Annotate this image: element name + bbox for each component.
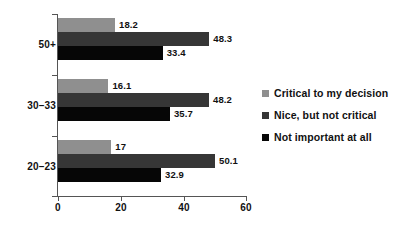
x-axis-tick [58, 197, 59, 201]
y-axis-category-label: 50+ [38, 39, 56, 50]
bar [58, 79, 108, 93]
bar [58, 154, 215, 168]
legend-swatch-icon [262, 112, 269, 119]
y-axis-tick [52, 14, 57, 15]
bar [58, 32, 209, 46]
bar [58, 168, 161, 182]
bar-value-label: 35.7 [174, 107, 193, 121]
legend-label: Nice, but not critical [274, 109, 377, 121]
plot-area: 18.2 48.3 33.4 16.1 48.2 35.7 17 50.1 32… [58, 14, 246, 196]
x-axis-line [57, 196, 247, 197]
x-axis-tick-label: 60 [240, 202, 252, 213]
y-axis-category-label: 30–33 [27, 100, 56, 111]
legend-item: Nice, but not critical [262, 106, 400, 124]
legend-swatch-icon [262, 134, 269, 141]
bar-value-label: 48.3 [213, 32, 232, 46]
y-axis-tick [52, 136, 57, 137]
bar-value-label: 17 [115, 140, 126, 154]
y-axis-tick [52, 196, 57, 197]
bar [58, 140, 111, 154]
bar-value-label: 33.4 [167, 46, 186, 60]
x-axis-tick-label: 20 [115, 202, 127, 213]
legend-swatch-icon [262, 90, 269, 97]
x-axis-tick-label: 0 [55, 202, 61, 213]
bar-value-label: 32.9 [165, 168, 184, 182]
y-axis-tick [52, 75, 57, 76]
chart-legend: Critical to my decision Nice, but not cr… [262, 84, 400, 150]
x-axis-tick [184, 197, 185, 201]
x-axis-tick-label: 40 [178, 202, 190, 213]
x-axis-tick [246, 197, 247, 201]
legend-label: Not important at all [274, 131, 372, 143]
bar-value-label: 18.2 [119, 18, 138, 32]
legend-item: Critical to my decision [262, 84, 400, 102]
bar [58, 18, 115, 32]
bar-value-label: 16.1 [112, 79, 131, 93]
bar [58, 46, 163, 60]
legend-label: Critical to my decision [274, 87, 388, 99]
bar [58, 107, 170, 121]
bar-value-label: 50.1 [219, 154, 238, 168]
bar-chart: 0 20 40 60 50+ 30–33 20–23 18.2 48.3 33.… [0, 0, 401, 228]
legend-item: Not important at all [262, 128, 400, 146]
y-axis-category-label: 20–23 [27, 161, 56, 172]
x-axis-tick [121, 197, 122, 201]
bar [58, 93, 209, 107]
bar-value-label: 48.2 [213, 93, 232, 107]
